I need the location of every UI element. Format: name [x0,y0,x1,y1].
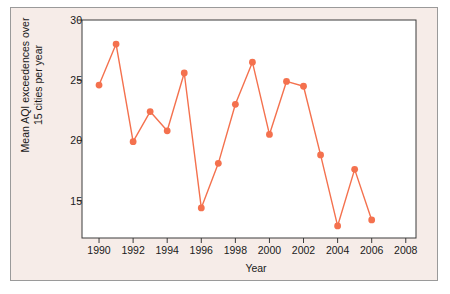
y-axis-title: Mean AQI exceedences over 15 cities per … [19,5,45,165]
data-point [351,166,358,173]
y-axis-tick-label: 30 [60,14,82,26]
data-point [266,131,273,138]
data-point [96,82,103,89]
data-point [198,204,205,211]
line-chart: 15202530 1990199219941996199820002002200… [0,0,450,294]
data-point [300,83,307,90]
y-axis-tick-label: 15 [60,195,82,207]
data-point [232,101,239,108]
data-point [249,59,256,66]
y-axis-tick-label: 20 [60,134,82,146]
x-axis-tick-labels: 1990199219941996199820002002200420062008 [0,244,450,260]
data-point [147,108,154,115]
x-axis-title: Year [96,262,416,274]
data-point [113,41,120,48]
plot-background [82,20,416,238]
x-axis-tick-label: 2008 [386,244,426,256]
data-point [283,78,290,85]
data-point [181,70,188,77]
data-point [130,138,137,145]
data-point [334,223,341,230]
y-axis-title-line2: 15 cities per year [32,5,45,165]
data-point [215,160,222,167]
data-point [317,152,324,159]
y-axis-title-line1: Mean AQI exceedences over [19,5,32,165]
data-point [368,217,375,224]
data-point [164,127,171,134]
y-axis-tick-label: 25 [60,74,82,86]
x-axis-ticks [99,238,406,243]
